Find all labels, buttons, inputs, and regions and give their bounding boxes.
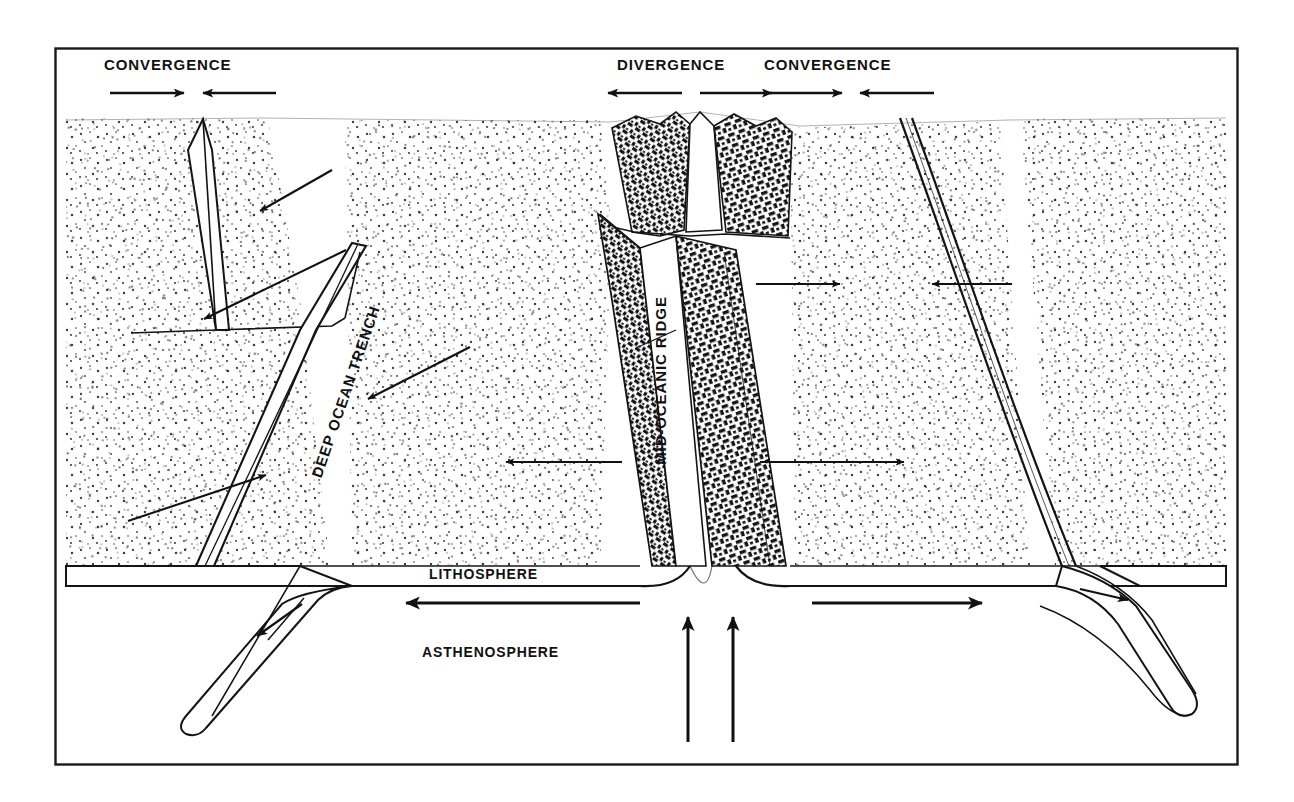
subducting-slab-right — [1040, 566, 1197, 716]
label-convergence-left: CONVERGENCE — [104, 56, 231, 73]
lithosphere-layer — [66, 566, 1226, 586]
subducting-slab-left — [181, 566, 352, 735]
mid-oceanic-ridge-feature — [598, 112, 792, 566]
figure-canvas: CONVERGENCE DIVERGENCE CONVERGENCE DEEP … — [0, 0, 1294, 802]
tectonics-cross-section-diagram — [0, 0, 1294, 802]
label-lithosphere: LITHOSPHERE — [429, 566, 538, 582]
label-divergence: DIVERGENCE — [617, 56, 725, 73]
label-convergence-right: CONVERGENCE — [764, 56, 891, 73]
label-asthenosphere: ASTHENOSPHERE — [422, 644, 559, 660]
label-mid-oceanic-ridge: MID-OCEANIC RIDGE — [652, 296, 669, 465]
